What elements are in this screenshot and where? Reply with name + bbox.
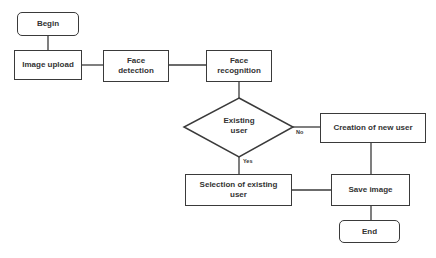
node-existing-user-text: Existing user — [209, 116, 269, 136]
node-face-recognition: Face recognition — [206, 50, 272, 82]
node-save-image: Save image — [331, 174, 410, 206]
node-selection-existing-user: Selection of existing user — [185, 174, 292, 206]
node-end: End — [339, 220, 400, 243]
node-begin: Begin — [17, 12, 79, 36]
node-creation-new-user: Creation of new user — [320, 113, 426, 143]
edge-label-no: No — [296, 129, 303, 135]
edge-label-yes: Yes — [243, 158, 252, 164]
node-image-upload: Image upload — [14, 50, 82, 80]
node-face-detection: Face detection — [103, 50, 169, 82]
flowchart-canvas: Begin Image upload Face detection Face r… — [0, 0, 436, 258]
